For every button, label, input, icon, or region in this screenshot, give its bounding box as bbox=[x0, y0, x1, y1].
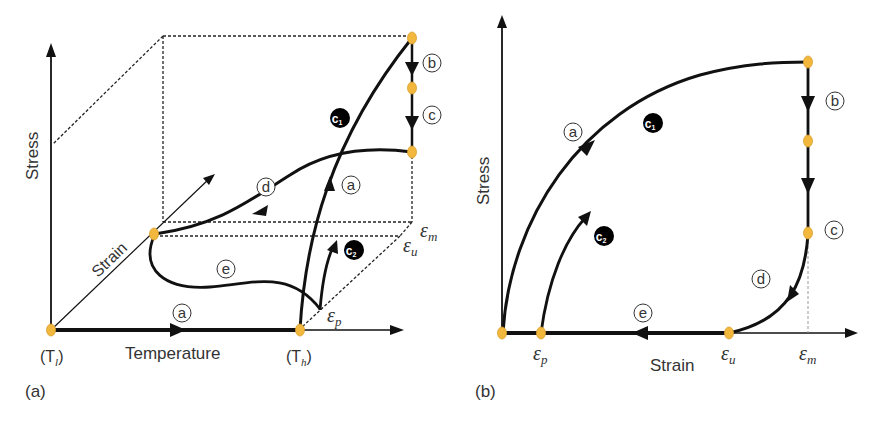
arrow-d bbox=[252, 205, 268, 216]
epsilon-m-label-a: εm bbox=[420, 219, 437, 244]
svg-text:c: c bbox=[428, 106, 436, 123]
label-d-b: d bbox=[752, 270, 770, 288]
strain-axis-b-arrowhead bbox=[845, 328, 858, 338]
arrow-a-loading bbox=[324, 176, 335, 191]
label-b-b: b bbox=[826, 92, 844, 110]
label-d: d bbox=[257, 178, 275, 196]
label-b: b bbox=[423, 54, 441, 72]
badge-c2-a: c2 bbox=[344, 240, 364, 260]
arrow-c2 bbox=[327, 240, 338, 254]
panel-a: Stress Temperature Strain (a) (Tl) (Th) … bbox=[23, 32, 441, 401]
temperature-axis-arrowhead bbox=[390, 325, 404, 335]
temp-low-label: (Tl) bbox=[40, 348, 64, 368]
label-c: c bbox=[423, 106, 441, 124]
epsilon-p-label-a: εp bbox=[327, 304, 342, 329]
arrow-c-b bbox=[801, 178, 815, 194]
temp-high-label: (Th) bbox=[286, 348, 312, 368]
arrow-a-heating bbox=[170, 323, 186, 337]
label-c-b: c bbox=[825, 221, 843, 239]
svg-text:a: a bbox=[178, 304, 187, 321]
arrow-d-b bbox=[787, 285, 799, 302]
svg-text:a: a bbox=[569, 123, 578, 140]
svg-text:a: a bbox=[347, 176, 356, 193]
stress-axis-arrowhead bbox=[46, 43, 56, 57]
svg-text:d: d bbox=[262, 178, 270, 195]
temperature-axis-label: Temperature bbox=[125, 344, 220, 363]
badge-c1-b: c1 bbox=[643, 113, 663, 133]
strain-axis-label-b: Strain bbox=[650, 356, 694, 375]
caption-b: (b) bbox=[475, 382, 496, 401]
badge-c1-a: c1 bbox=[330, 108, 350, 128]
caption-a: (a) bbox=[25, 382, 46, 401]
epsilon-u-label-b: εu bbox=[721, 342, 736, 367]
arrow-c bbox=[405, 116, 419, 130]
svg-text:d: d bbox=[757, 270, 765, 287]
arrow-e-b bbox=[632, 326, 648, 340]
svg-text:b: b bbox=[428, 54, 436, 71]
state-points bbox=[47, 32, 417, 336]
arrow-b bbox=[405, 62, 419, 76]
stress-axis-b-arrowhead bbox=[497, 15, 507, 28]
stress-axis-label-b: Stress bbox=[474, 157, 493, 205]
path-c2-b bbox=[541, 218, 585, 333]
label-e: e bbox=[217, 260, 235, 278]
badge-c2-b: c2 bbox=[594, 226, 614, 246]
stress-axis-label: Stress bbox=[23, 132, 42, 180]
path-c2 bbox=[320, 247, 333, 310]
shape-memory-diagram: Stress Temperature Strain (a) (Tl) (Th) … bbox=[0, 0, 884, 424]
epsilon-u-label-a: εu bbox=[403, 234, 418, 259]
svg-text:e: e bbox=[222, 260, 230, 277]
arrow-b-b bbox=[801, 96, 815, 112]
label-a-heating: a bbox=[173, 304, 191, 322]
svg-text:c: c bbox=[830, 221, 838, 238]
label-e-b: e bbox=[634, 304, 652, 322]
label-a-loading: a bbox=[342, 176, 360, 194]
epsilon-m-label-b: εm bbox=[799, 342, 816, 367]
label-a-b: a bbox=[564, 123, 582, 141]
path-e bbox=[150, 236, 320, 309]
epsilon-p-label-b: εp bbox=[533, 342, 548, 367]
svg-text:e: e bbox=[639, 304, 647, 321]
svg-text:b: b bbox=[831, 92, 839, 109]
panel-b: Stress Strain (b) εp εu εm a b c d e c1 bbox=[474, 15, 858, 401]
